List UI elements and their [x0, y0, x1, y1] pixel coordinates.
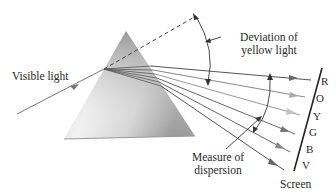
deviation-label: Deviation of yellow light — [224, 31, 314, 57]
prism-dispersion-diagram: Visible light Deviation of yellow light … — [0, 0, 336, 196]
dispersion-label-line2: dispersion — [180, 164, 256, 177]
dispersion-label-line1: Measure of — [180, 151, 256, 164]
deviation-arc — [193, 13, 221, 86]
spectrum-label-yellow: Y — [313, 110, 321, 122]
incident-extension-dashed — [104, 16, 196, 69]
incident-label: Visible light — [12, 70, 69, 83]
spectrum-label-red: R — [321, 75, 328, 87]
deviation-label-line2: yellow light — [224, 44, 314, 57]
spectrum-label-green: G — [309, 126, 317, 138]
diagram-svg — [0, 0, 336, 196]
spectrum-label-blue: B — [306, 143, 313, 155]
spectrum-label-violet: V — [302, 159, 310, 171]
dispersion-label: Measure of dispersion — [180, 151, 256, 177]
deviation-label-line1: Deviation of — [224, 31, 314, 44]
spectrum-label-orange: O — [316, 92, 324, 104]
screen-label: Screen — [280, 178, 311, 191]
